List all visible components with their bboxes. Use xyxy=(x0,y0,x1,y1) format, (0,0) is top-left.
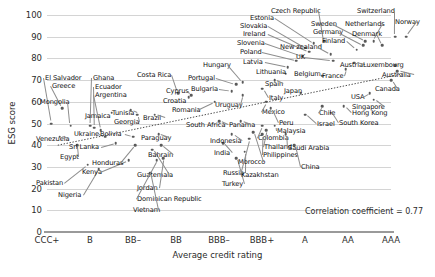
data-point[interactable] xyxy=(132,135,135,138)
data-point[interactable] xyxy=(248,137,251,140)
point-label: Georgia xyxy=(114,119,140,126)
data-point[interactable] xyxy=(274,124,277,127)
data-point[interactable] xyxy=(261,124,264,127)
point-label: Bolivia xyxy=(100,131,122,138)
data-point[interactable] xyxy=(287,66,290,69)
data-point[interactable] xyxy=(368,92,371,95)
data-point[interactable] xyxy=(332,59,335,62)
data-point[interactable] xyxy=(394,35,397,38)
data-point[interactable] xyxy=(134,144,137,147)
data-point[interactable] xyxy=(364,40,367,43)
point-label: Slovakia xyxy=(240,23,267,30)
point-label: Estonia xyxy=(250,15,274,22)
point-label: Sri Lanka xyxy=(69,144,99,151)
data-point[interactable] xyxy=(265,129,268,132)
label-leader-line xyxy=(286,137,288,148)
point-label: Bulgaria xyxy=(191,86,218,93)
point-label: Latvia xyxy=(243,59,263,66)
point-label: France xyxy=(322,73,344,80)
data-point[interactable] xyxy=(136,114,139,117)
x-tick-AAA: AAA xyxy=(382,235,400,245)
point-label: Israel xyxy=(317,121,335,128)
x-tick-BB: BB xyxy=(170,235,182,245)
point-label: Poland xyxy=(240,49,262,56)
label-leader-line xyxy=(262,137,263,155)
point-label: Tunisia xyxy=(112,110,134,117)
data-point[interactable] xyxy=(231,133,234,136)
data-point[interactable] xyxy=(342,105,345,108)
point-label: Nigeria xyxy=(58,192,81,199)
esg-credit-rating-scatter-chart: ESG score 0102030405060708090100 El Salv… xyxy=(0,0,435,277)
data-point[interactable] xyxy=(188,96,191,99)
y-tick-10: 10 xyxy=(31,205,42,215)
y-tick-90: 90 xyxy=(31,32,42,42)
point-label: Hong Kong xyxy=(352,110,387,117)
point-label: Cyprus xyxy=(166,88,189,95)
data-point[interactable] xyxy=(373,40,376,43)
point-label: Luxembourg xyxy=(363,62,404,69)
point-label: Kazakhstan xyxy=(241,172,279,179)
point-label: Ukraine xyxy=(74,131,99,138)
x-tick-A: A xyxy=(302,235,308,245)
point-label: Mongolia xyxy=(40,99,69,106)
data-point[interactable] xyxy=(89,124,92,127)
point-label: Netherlands xyxy=(345,21,385,28)
x-axis-label: Average credit rating xyxy=(0,250,435,260)
data-point[interactable] xyxy=(304,114,307,117)
point-label: El Salvador xyxy=(45,75,81,82)
data-point[interactable] xyxy=(61,107,64,110)
data-point[interactable] xyxy=(115,142,118,145)
point-label: South Korea xyxy=(339,120,378,127)
x-tick-B: B xyxy=(87,235,93,245)
point-label: Costa Rica xyxy=(137,72,171,79)
point-label: Argentina xyxy=(95,92,127,99)
point-label: Italy xyxy=(269,95,283,102)
point-label: Vietnam xyxy=(133,207,160,214)
data-point[interactable] xyxy=(355,48,358,51)
x-tick-BBB: BBB+ xyxy=(250,235,275,245)
data-point[interactable] xyxy=(241,81,244,84)
point-label: Kenya xyxy=(82,169,102,176)
point-label: India xyxy=(214,150,230,157)
point-label: Ghana xyxy=(93,75,114,82)
point-label: Greece xyxy=(52,83,75,90)
point-label: Saudi Arabia xyxy=(288,145,329,152)
data-point[interactable] xyxy=(50,122,53,125)
data-point[interactable] xyxy=(93,127,96,130)
point-label: Slovenia xyxy=(237,40,265,47)
point-label: Japan xyxy=(284,88,302,95)
point-label: Pakistan xyxy=(36,180,63,187)
point-label: Belgium xyxy=(294,71,321,78)
data-point[interactable] xyxy=(69,124,72,127)
data-point[interactable] xyxy=(330,53,333,56)
point-label: Panama xyxy=(229,122,255,129)
x-tick-BB: BB– xyxy=(125,235,141,245)
y-tick-50: 50 xyxy=(31,119,42,129)
x-tick-CCC: CCC+ xyxy=(35,235,60,245)
point-label: Bahrain xyxy=(148,152,173,159)
point-label: Egypt xyxy=(60,154,79,161)
data-point[interactable] xyxy=(381,44,384,47)
x-tick-BBB: BBB– xyxy=(208,235,230,245)
x-axis-line xyxy=(44,231,394,233)
point-label: New zealand xyxy=(280,44,322,51)
data-point[interactable] xyxy=(127,159,130,162)
point-label: Malaysia xyxy=(277,128,305,135)
point-label: Ecuador xyxy=(95,84,122,91)
point-label: Singapore xyxy=(352,104,385,111)
point-label: Czech Republic xyxy=(271,8,321,15)
point-label: Philippines xyxy=(263,152,298,159)
point-label: Lithuania xyxy=(256,69,286,76)
data-point[interactable] xyxy=(87,163,90,166)
data-point[interactable] xyxy=(241,94,244,97)
data-point[interactable] xyxy=(405,35,408,38)
point-label: China xyxy=(301,164,320,171)
data-point[interactable] xyxy=(362,44,365,47)
y-tick-100: 100 xyxy=(26,10,42,20)
data-point[interactable] xyxy=(235,83,238,86)
point-label: Portugal xyxy=(188,75,215,82)
data-point[interactable] xyxy=(231,90,234,93)
point-label: Jamaica xyxy=(85,113,111,120)
point-label: Uruguay xyxy=(215,102,243,109)
point-label: Dominican Republic xyxy=(137,196,202,203)
